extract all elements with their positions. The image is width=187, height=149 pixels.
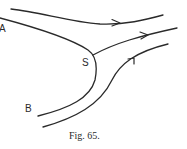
lower-streamline	[43, 44, 168, 127]
figure-caption: Fig. 65.	[69, 130, 100, 141]
label-s: S	[82, 57, 89, 68]
top-streamline-arrow-icon	[112, 20, 120, 27]
label-b: B	[25, 103, 32, 114]
upper-branch-streamline	[93, 28, 177, 55]
top-streamline	[11, 9, 163, 24]
label-a: A	[0, 23, 6, 34]
flow-diagram: A S B Fig. 65.	[0, 0, 187, 149]
